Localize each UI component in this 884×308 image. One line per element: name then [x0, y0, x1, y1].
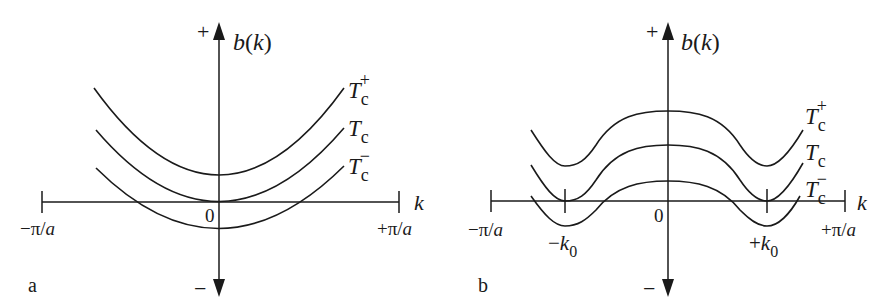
x-right-label: +π/a [821, 219, 856, 240]
plus-k0-label: +k0 [749, 231, 778, 260]
x-left-label: −π/a [468, 219, 503, 240]
b-axis-up-arrow-icon [662, 22, 674, 40]
x-axis-label: k [857, 190, 868, 215]
curve-tc [531, 145, 803, 201]
y-minus-label: − [194, 276, 206, 301]
legend-tc: Tc [348, 116, 369, 147]
legend-tc-minus: Tc− [348, 146, 370, 185]
curve-tc [96, 128, 344, 202]
legend-tc-plus: Tc+ [348, 70, 370, 109]
y-plus-label: + [197, 19, 209, 44]
minus-k0-label: −k0 [548, 231, 577, 260]
legend-tc-minus: Tc− [805, 169, 827, 208]
y-plus-label: + [646, 19, 658, 44]
x-axis-label: k [414, 190, 425, 215]
curve-tc-minus [531, 181, 800, 226]
legend-tc: Tc [805, 140, 826, 171]
x-right-label: +π/a [377, 218, 412, 239]
origin-label: 0 [205, 205, 215, 226]
y-axis-label: b(k) [681, 29, 720, 55]
origin-label: 0 [654, 205, 664, 226]
y-axis-label: b(k) [233, 29, 272, 55]
curve-tc-plus [531, 111, 803, 166]
b-axis-up-arrow-icon [213, 22, 225, 40]
x-left-label: −π/a [20, 218, 55, 239]
panel-label: a [28, 274, 37, 296]
legend-tc-plus: Tc+ [805, 96, 827, 135]
panel-a: + − b(k) k 0 −π/a +π/a a Tc+ Tc Tc− [20, 19, 425, 301]
b-axis-down-arrow-icon [662, 279, 674, 297]
panel-b: + − b(k) k 0 −π/a +π/a −k0 +k0 b Tc+ Tc … [468, 19, 868, 301]
figure: + − b(k) k 0 −π/a +π/a a Tc+ Tc Tc− + − … [0, 0, 884, 308]
y-minus-label: − [643, 276, 655, 301]
panel-label: b [478, 274, 488, 296]
b-axis-down-arrow-icon [213, 279, 225, 297]
